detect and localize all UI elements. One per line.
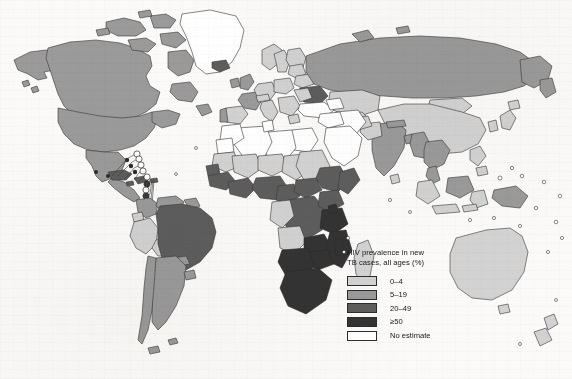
legend-label-50-plus: ≥50 xyxy=(390,317,403,326)
region-jamaica xyxy=(126,181,134,186)
region-newfoundland xyxy=(196,104,212,116)
region-ireland xyxy=(230,78,240,88)
region-new-zealand-n xyxy=(544,314,558,330)
legend-item-20-49: 20–49 xyxy=(347,302,431,316)
region-central-america xyxy=(108,178,140,202)
region-arctic-island-4 xyxy=(160,32,186,48)
region-argentina xyxy=(152,256,186,330)
region-kamchatka xyxy=(540,78,556,98)
legend-title-line-1: HIV prevalence in new xyxy=(347,248,431,258)
legend-item-0-4: 0–4 xyxy=(347,274,431,288)
region-arctic-island-3 xyxy=(128,38,156,52)
region-poland xyxy=(274,78,294,94)
legend-label-no-estimate: No estimate xyxy=(390,331,431,340)
region-tierra-del-fuego xyxy=(148,346,160,354)
region-labrador xyxy=(170,82,198,102)
region-baffin xyxy=(168,50,194,76)
legend-title-line-2: TB cases, all ages (%) xyxy=(347,258,431,268)
region-sri-lanka xyxy=(390,174,400,184)
legend-swatch-no-estimate xyxy=(347,331,377,341)
region-tasmania xyxy=(498,304,510,314)
region-lesser-sunda xyxy=(462,204,478,212)
legend-swatch-0-4 xyxy=(347,276,377,286)
legend-label-5-19: 5–19 xyxy=(390,290,407,299)
region-arctic-islet-6 xyxy=(138,10,152,18)
region-korea xyxy=(488,120,498,132)
region-arctic-island-1 xyxy=(106,18,146,36)
hiv-tb-prevalence-world-map: .c0{fill:#d2d2d2;stroke:#3a3a3a;stroke-w… xyxy=(0,0,572,379)
region-us-east xyxy=(152,110,180,128)
region-alaska-islets xyxy=(22,80,30,87)
region-greece xyxy=(288,114,300,124)
region-somalia xyxy=(338,168,360,194)
region-arctic-islet-ru xyxy=(396,26,410,34)
legend-items: 0–4 5–19 20–49 ≥50 No estimate xyxy=(347,274,431,342)
region-java xyxy=(432,204,460,214)
region-japan xyxy=(500,110,516,130)
region-philippines-2 xyxy=(476,166,488,176)
region-japan-north xyxy=(508,100,520,110)
region-russia xyxy=(306,36,536,98)
region-sumatra xyxy=(416,180,440,204)
region-new-zealand-s xyxy=(534,328,552,346)
legend-item-5-19: 5–19 xyxy=(347,288,431,302)
region-uk xyxy=(240,74,254,90)
region-arctic-islet-5 xyxy=(96,28,110,36)
legend-label-0-4: 0–4 xyxy=(390,277,403,286)
region-philippines xyxy=(470,146,486,166)
legend-swatch-20-49 xyxy=(347,303,377,313)
legend-item-50-plus: ≥50 xyxy=(347,315,431,329)
region-balkans xyxy=(278,96,300,116)
map-legend: HIV prevalence in new TB cases, all ages… xyxy=(347,248,431,342)
region-arctic-island-2 xyxy=(150,14,176,28)
region-alaska-islets-2 xyxy=(31,86,39,93)
legend-swatch-5-19 xyxy=(347,290,377,300)
legend-swatch-50-plus xyxy=(347,317,377,327)
region-papua-new-guinea xyxy=(492,186,528,208)
legend-label-20-49: 20–49 xyxy=(390,304,411,313)
legend-item-no-estimate: No estimate xyxy=(347,329,431,343)
region-australia xyxy=(450,228,528,300)
region-uruguay xyxy=(184,270,196,280)
region-malawi xyxy=(334,238,344,256)
region-lake-victoria-hole xyxy=(328,204,338,214)
world-map-graphic: .c0{fill:#d2d2d2;stroke:#3a3a3a;stroke-w… xyxy=(0,0,572,379)
region-arabia xyxy=(324,126,362,166)
region-tunisia xyxy=(262,120,274,132)
region-western-sahara xyxy=(216,138,234,154)
region-mali xyxy=(232,154,262,178)
region-south-africa xyxy=(280,268,332,314)
region-italy xyxy=(260,100,278,122)
region-falklands xyxy=(168,338,178,345)
region-borneo xyxy=(446,176,474,198)
